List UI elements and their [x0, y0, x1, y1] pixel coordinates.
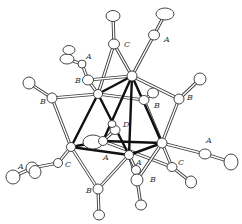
ligand-atom-c-top	[109, 39, 120, 49]
atom-label: C	[65, 160, 71, 169]
metal-atom-m3	[67, 143, 76, 152]
atom-label: B	[153, 101, 160, 110]
atom-label: B	[85, 186, 92, 195]
atoms	[6, 8, 238, 220]
ligand-atom-o-a-ul	[60, 54, 74, 64]
ligand-atom-c-b-ul	[83, 75, 94, 85]
ligand-atom-o-d	[108, 121, 116, 128]
atom-label: A	[102, 153, 109, 162]
atom-label: C	[178, 158, 184, 167]
ligand-atom-o-a-l1	[6, 170, 20, 184]
metal-atom-m4	[99, 137, 108, 146]
atom-label: C	[124, 40, 130, 49]
metal-atom-m5	[125, 151, 134, 160]
ligand-atom-c-b-ll	[93, 184, 103, 194]
ligand-bond-highlight	[162, 143, 205, 154]
ligand-atom-c-b-c	[139, 96, 149, 105]
ligand-atom-o-a-top	[156, 8, 174, 20]
ligand-atom-c-c-l	[54, 159, 63, 168]
atom-label: B	[74, 76, 81, 85]
ligand-atom-o-b-r	[194, 73, 206, 85]
ligand-atom-c-a-r	[199, 149, 211, 159]
ligand-atom-c-a-l2	[29, 166, 41, 179]
ortep-diagram: ACABBBBDAACAACBB	[0, 0, 242, 224]
ligand-bond-highlight	[162, 99, 179, 143]
atom-label: A	[205, 136, 212, 145]
ligand-atom-c-b-l	[47, 93, 57, 103]
ligand-atom-c-c-r	[167, 163, 177, 172]
atom-label: A	[135, 158, 142, 167]
molecular-structure-figure: ACABBBBDAACAACBB	[0, 0, 242, 224]
metal-atom-m6	[157, 138, 167, 148]
ligand-atom-c-a-ul	[78, 60, 86, 68]
atom-label: D	[122, 120, 130, 129]
ligand-bond-highlight	[71, 147, 98, 189]
metal-atom-m2	[94, 90, 103, 99]
atom-label: B	[186, 93, 193, 102]
metal-atom-m1	[127, 71, 137, 81]
ligand-bond-highlight	[52, 98, 71, 147]
ligand-bond-highlight	[132, 35, 154, 76]
atom-label: A	[163, 35, 170, 44]
ligand-atom-c-a-top	[149, 30, 160, 40]
ligand-atom-c-b-r	[174, 94, 184, 104]
ligand-atom-o-a-ul2	[63, 46, 75, 55]
atom-label: A	[85, 52, 92, 61]
ligand-atom-o-top	[106, 11, 120, 22]
ligand-atom-o-a-r	[224, 154, 238, 170]
atom-label: A	[17, 162, 24, 171]
ligand-atom-o-b-ll	[94, 210, 105, 220]
atom-label: B	[39, 97, 46, 106]
atom-label: B	[149, 175, 156, 184]
ligand-atom-c-b-lr	[131, 174, 143, 186]
ligand-atom-o-b-c	[148, 88, 159, 98]
ligand-atom-o-b-l	[23, 77, 35, 89]
ligand-bonds	[13, 14, 231, 215]
ligand-atom-o-c-r	[186, 176, 197, 188]
ligand-atom-o-b-lr	[136, 200, 147, 210]
